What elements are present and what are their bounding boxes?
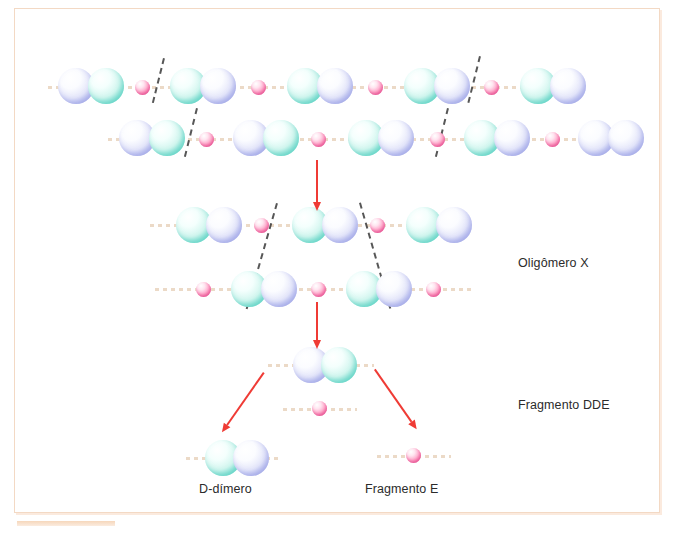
arrow-oligomer-to-dde-shaft [316,302,318,340]
r3-e1-node [254,218,269,233]
r1-d6-node [317,68,353,104]
r4-d4-node [376,271,412,307]
r2-d6-node [378,120,414,156]
fibrin-degradation-figure: Oligômero XFragmento DDED-dímeroFragment… [0,0,678,538]
r4-e3-node [426,282,441,297]
r2-e2-node [311,132,326,147]
r2-d4-node [263,120,299,156]
r4-e1-node [196,282,211,297]
r4-e2-node [311,282,326,297]
r1-d10-node [550,68,586,104]
dde-e1-node [312,401,327,416]
label-d-dimero: D-dímero [199,482,252,496]
label-fragmento-dde: Fragmento DDE [518,398,610,412]
r4-d2-node [261,271,297,307]
r1-d8-node [434,68,470,104]
r1-e1-node [135,80,150,95]
r2-e4-node [545,132,560,147]
fe-e1-node [406,448,421,463]
r3-d6-node [436,207,472,243]
r1-e4-node [484,80,499,95]
r3-d2-node [206,207,242,243]
r2-d10-node [608,120,644,156]
r1-e2-node [251,80,266,95]
arrow-protofibril-to-oligomer-head [313,202,321,211]
label-fragmento-e: Fragmento E [365,482,438,496]
arrow-protofibril-to-oligomer-shaft [316,160,318,202]
r3-d4-node [322,207,358,243]
dd-d2-node [233,440,269,476]
bottom-accent-bar [17,521,115,526]
arrow-oligomer-to-dde-head [313,340,321,349]
r1-e3-node [368,80,383,95]
r2-e3-node [430,132,445,147]
r1-d2-node [88,68,124,104]
r2-e1-node [199,132,214,147]
r1-d4-node [200,68,236,104]
label-oligomero-x: Oligômero X [518,256,589,270]
r2-d8-node [494,120,530,156]
r3-e2-node [370,218,385,233]
r2-d2-node [149,120,185,156]
dde-d2-node [321,347,357,383]
